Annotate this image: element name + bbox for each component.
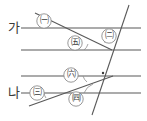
angle-arc-5: [84, 44, 88, 50]
angle-label-5: ㈤: [69, 38, 81, 47]
right-angle-mark: [102, 72, 104, 74]
angle-label-6: ㈥: [65, 70, 77, 79]
angle-label-4: ㈣: [70, 94, 82, 103]
angle-label-1: ㈠: [38, 16, 50, 25]
angle-label-3: ㈢: [31, 88, 43, 97]
line-label-na: 나: [8, 86, 20, 99]
diagram-canvas: 가 나 ㈠ ㈡ ㈤ ㈥ ㈢ ㈣: [0, 0, 147, 121]
horizontal-lines-group: [21, 28, 141, 93]
angle-arc-6: [83, 76, 87, 82]
transversal-steep: [92, 5, 129, 115]
angle-label-2: ㈡: [103, 31, 115, 40]
line-label-ga: 가: [8, 21, 20, 34]
